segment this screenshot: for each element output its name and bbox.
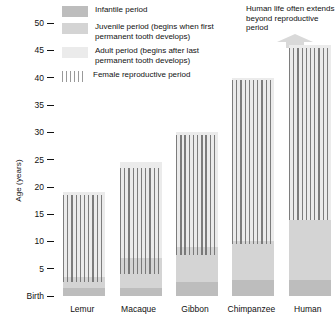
y-axis-tick-25: 25 <box>35 155 54 165</box>
y-axis-tick-10: 10 <box>35 236 54 246</box>
y-axis-tick-35: 35 <box>35 100 54 110</box>
reproductive-period-overlay <box>63 195 105 282</box>
x-axis-label-chimpanzee: Chimpanzee <box>223 304 279 314</box>
y-axis-tick-label: 15 <box>35 209 44 219</box>
reproductive-period-overlay <box>232 80 274 244</box>
y-axis-tick-mark <box>47 268 54 269</box>
bar-lemur <box>63 192 105 296</box>
y-axis-tick-mark <box>47 77 54 78</box>
bar-chimpanzee <box>232 78 274 296</box>
bar-segment-juvenile <box>289 220 331 280</box>
bar-segment-infantile <box>289 280 331 296</box>
x-axis-label-lemur: Lemur <box>54 304 110 314</box>
bar-human <box>289 45 331 296</box>
y-axis-tick-label: 50 <box>35 18 44 28</box>
y-axis-tick-50: 50 <box>35 18 54 28</box>
y-axis-tick-40: 40 <box>35 73 54 83</box>
y-axis-tick-label: 40 <box>35 73 44 83</box>
primate-life-history-chart: Age (years) 5045403530252015105Birth Inf… <box>0 0 336 318</box>
bar-segment-infantile <box>63 288 105 296</box>
y-axis-tick-label: Birth <box>27 291 44 301</box>
y-axis-tick-mark <box>47 159 54 160</box>
x-axis-label-human: Human <box>280 304 336 314</box>
x-axis-label-macaque: Macaque <box>110 304 166 314</box>
reproductive-period-overlay <box>120 168 162 274</box>
plot-area: LemurMacaqueGibbonChimpanzeeHuman <box>54 0 336 318</box>
bar-macaque <box>120 162 162 296</box>
bar-segment-infantile <box>120 288 162 296</box>
y-axis-tick-mark <box>47 214 54 215</box>
y-axis-tick-label: 10 <box>35 236 44 246</box>
reproductive-period-overlay <box>176 135 218 255</box>
y-axis-tick-mark <box>47 296 54 297</box>
y-axis-tick-45: 45 <box>35 45 54 55</box>
y-axis-tick-label: 25 <box>35 155 44 165</box>
y-axis-tick-mark <box>47 50 54 51</box>
y-axis-tick-5: 5 <box>39 264 54 274</box>
bar-segment-infantile <box>232 280 274 296</box>
y-axis-tick-mark <box>47 241 54 242</box>
y-axis-tick-mark <box>47 132 54 133</box>
y-axis-tick-label: 5 <box>39 264 44 274</box>
y-axis-tick-birth: Birth <box>27 291 54 301</box>
y-axis-tick-mark <box>47 23 54 24</box>
y-axis-tick-label: 20 <box>35 182 44 192</box>
x-axis-label-gibbon: Gibbon <box>167 304 223 314</box>
y-axis-tick-20: 20 <box>35 182 54 192</box>
y-axis-tick-30: 30 <box>35 127 54 137</box>
y-axis-tick-label: 30 <box>35 127 44 137</box>
bar-gibbon <box>176 132 218 296</box>
y-axis-title: Age (years) <box>14 141 23 221</box>
bar-segment-juvenile <box>232 241 274 279</box>
y-axis-tick-label: 35 <box>35 100 44 110</box>
y-axis: Age (years) 5045403530252015105Birth <box>0 0 54 318</box>
y-axis-tick-mark <box>47 187 54 188</box>
reproductive-period-overlay <box>289 48 331 220</box>
y-axis-tick-15: 15 <box>35 209 54 219</box>
y-axis-tick-mark <box>47 105 54 106</box>
y-axis-tick-label: 45 <box>35 45 44 55</box>
bar-segment-infantile <box>176 282 218 296</box>
